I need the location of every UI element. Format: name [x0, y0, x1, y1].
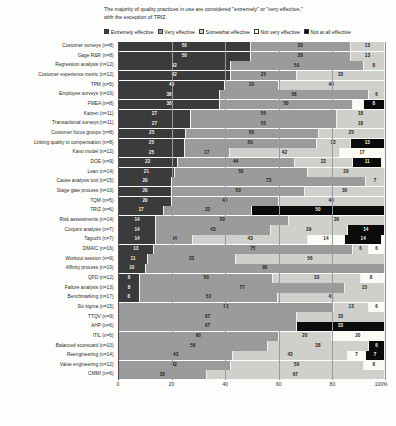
- category-label: DOE (n=9): [0, 158, 116, 167]
- bar-value-label: 50: [182, 44, 187, 49]
- table-row: 6733: [119, 312, 385, 321]
- bar-segment: 13: [351, 42, 385, 51]
- category-label: Customer surveys (n=8): [0, 42, 116, 51]
- table-row: 87715: [119, 283, 385, 292]
- bar-segment: 13: [317, 139, 351, 148]
- bar-segment: 50: [119, 42, 251, 51]
- bar-segment: 8: [119, 274, 140, 283]
- bar-segment: 22: [295, 158, 354, 167]
- category-label-text: Conjoint analysis (n=7): [65, 228, 114, 233]
- bar-segment: 56: [236, 254, 385, 263]
- bar-value-label: 21: [144, 170, 149, 175]
- legend-label: Somewhat effective: [206, 29, 250, 35]
- bar-segment: 50: [220, 100, 353, 109]
- bar-value-label: 25: [149, 131, 154, 136]
- bar-segment: 33: [297, 322, 385, 331]
- table-row: 22442211: [119, 158, 385, 167]
- bar-segment: 14: [348, 225, 385, 234]
- bar-value-label: 17: [138, 208, 143, 213]
- bar-segment: 17: [119, 206, 164, 215]
- category-label-text: Affinity process (n=10): [66, 266, 114, 271]
- bar-segment: 67: [119, 312, 297, 321]
- chart-headline: The majority of quality practices in use…: [104, 6, 392, 22]
- legend-swatch-icon: [254, 29, 259, 34]
- bar-segment: 42: [230, 148, 341, 157]
- bar-value-label: 14: [361, 237, 366, 242]
- bar-value-label: 7: [355, 353, 358, 358]
- category-label-text: Reengineering (n=14): [67, 353, 114, 358]
- category-label-text: Kaizen (n=11): [84, 112, 114, 117]
- headline-line-2: with the exception of TRIZ.: [104, 14, 392, 22]
- table-row: 850338: [119, 274, 385, 283]
- bar-segment: 42: [119, 61, 231, 70]
- table-row: 422533: [119, 71, 385, 80]
- bar-value-label: 13: [349, 305, 354, 310]
- bar-value-label: 6: [359, 247, 362, 252]
- bar-segment: 25: [119, 129, 186, 138]
- category-label: Reengineering (n=14): [0, 351, 116, 360]
- category-label-text: Regression analysis (n=12): [55, 63, 113, 68]
- bar-segment: 50: [185, 139, 317, 148]
- category-label-text: Six sigma (n=15): [77, 305, 113, 310]
- category-label: Stage gate process (n=10): [0, 187, 116, 196]
- bar-segment: 67: [207, 370, 385, 379]
- category-label-text: Customer surveys (n=8): [62, 44, 113, 49]
- category-label: Kaizen (n=11): [0, 110, 116, 119]
- bar-segment: 50: [252, 206, 385, 215]
- bar-value-label: 75: [250, 247, 255, 252]
- bar-segment: 67: [119, 322, 297, 331]
- category-label-text: Linking quality to compensation (n=8): [34, 141, 114, 146]
- bar-value-label: 55: [261, 122, 266, 127]
- bar-value-label: 43: [248, 237, 253, 242]
- table-row: 38508: [119, 100, 385, 109]
- category-label: Value engineering (n=12): [0, 361, 116, 370]
- bar-segment: 13: [351, 52, 385, 61]
- bar-segment: 14: [308, 235, 345, 244]
- legend-label: Very effective: [164, 29, 195, 35]
- table-row: 275518: [119, 119, 385, 128]
- bar-segment: 55: [191, 119, 337, 128]
- category-label: FMEA (n=8): [0, 100, 116, 109]
- bar-value-label: 8: [128, 286, 131, 291]
- bar-value-label: 6: [375, 305, 378, 310]
- bar-value-label: 50: [283, 102, 288, 107]
- bar-value-label: 50: [249, 131, 254, 136]
- category-label: TQM (n=5): [0, 197, 116, 206]
- bar-value-label: 22: [321, 160, 326, 165]
- bar-segment: 14: [119, 225, 156, 234]
- bar-segment: 50: [186, 129, 319, 138]
- bar-segment: 11: [119, 254, 148, 263]
- bar-value-label: 81: [224, 305, 229, 310]
- bar-value-label: 50: [182, 54, 187, 59]
- bar-value-label: 11: [365, 160, 370, 165]
- bar-segment: 50: [175, 168, 308, 177]
- bar-value-label: 8: [128, 276, 131, 281]
- bar-value-label: 25: [349, 131, 354, 136]
- table-row: 3367: [119, 370, 385, 379]
- bar-segment: 38: [268, 341, 369, 350]
- bar-segment: 33: [164, 206, 252, 215]
- x-axis-tick-label: 40: [222, 381, 228, 387]
- bar-value-label: 25: [149, 141, 154, 146]
- category-label: Benchmarking (n=17): [0, 293, 116, 302]
- bar-value-label: 30: [342, 189, 347, 194]
- table-row: 25501313: [119, 139, 385, 148]
- category-label: Cause analysis tool (n=15): [0, 177, 116, 186]
- chart-legend: Extremely effectiveVery effectiveSomewha…: [104, 29, 394, 35]
- bar-segment: 50: [140, 274, 273, 283]
- bar-value-label: 67: [205, 315, 210, 320]
- category-label: QFD (n=12): [0, 274, 116, 283]
- category-label-text: FMEA (n=8): [88, 102, 114, 107]
- headline-line-1: The majority of quality practices in use…: [104, 6, 392, 14]
- bar-value-label: 42: [282, 151, 287, 156]
- bar-value-label: 29: [343, 170, 348, 175]
- table-row: 56386: [119, 341, 385, 350]
- bar-segment: 33: [273, 274, 361, 283]
- category-label-text: Employee surveys (n=16): [59, 92, 114, 97]
- category-label-text: DMAIC (n=16): [83, 247, 114, 252]
- category-label-text: Transactional surveys (n=11): [52, 121, 113, 126]
- category-label-text: Risk assessments (n=14): [60, 218, 114, 223]
- category-label: Risk assessments (n=14): [0, 216, 116, 225]
- bar-value-label: 25: [261, 73, 266, 78]
- table-row: 137566: [119, 245, 385, 254]
